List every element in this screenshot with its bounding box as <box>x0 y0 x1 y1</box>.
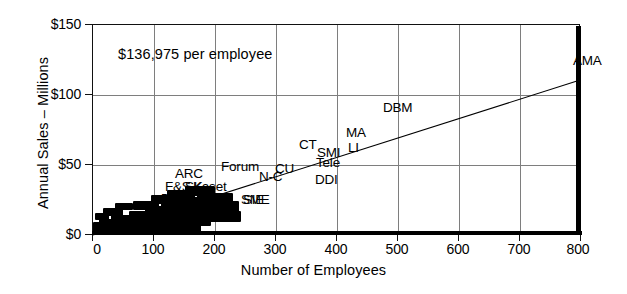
point-label-ma: MA <box>346 126 366 140</box>
x-tick-label-600: 600 <box>428 241 488 257</box>
point-label-tele: Tele <box>316 156 340 170</box>
x-tick-label-500: 500 <box>367 241 427 257</box>
x-tick-label-800: 800 <box>548 241 608 257</box>
y-tick-100 <box>85 94 92 95</box>
y-axis-title: Annual Sales – Millions <box>35 3 51 263</box>
y-tick-label-100: $100 <box>21 86 81 102</box>
point-label-forum: Forum <box>221 160 259 174</box>
y-tick-150 <box>85 24 92 25</box>
scatter-chart-figure: Annual Sales – Millions $150 $100 $50 $0 <box>0 0 627 294</box>
x-tick-label-700: 700 <box>489 241 549 257</box>
x-tick-label-300: 300 <box>245 241 305 257</box>
x-axis-line <box>92 231 582 235</box>
y-tick-0 <box>85 234 92 235</box>
y-tick-label-150: $150 <box>21 16 81 32</box>
point-label-ddi: DDI <box>315 173 338 187</box>
y-tick-50 <box>85 164 92 165</box>
point-label-ami: AMI <box>169 197 190 209</box>
x-axis-title: Number of Employees <box>0 262 627 278</box>
point-label-sie: SIE <box>243 193 264 207</box>
point-label-ct: CT <box>299 138 317 152</box>
per-employee-annotation: $136,975 per employee <box>118 46 272 62</box>
y-tick-label-0: $0 <box>21 226 81 242</box>
point-label-li: LI <box>348 141 359 155</box>
x-tick-label-200: 200 <box>184 241 244 257</box>
point-label-iia: IIA <box>189 193 203 205</box>
x-tick-label-400: 400 <box>306 241 366 257</box>
point-label-nc: N-C <box>259 170 282 184</box>
point-label-arc: ARC <box>175 167 203 181</box>
x-tick-label-0: 0 <box>67 241 127 257</box>
point-label-dbm: DBM <box>383 101 412 115</box>
x-tick-label-100: 100 <box>123 241 183 257</box>
ama-marker-bar <box>576 26 581 235</box>
y-tick-label-50: $50 <box>21 156 81 172</box>
